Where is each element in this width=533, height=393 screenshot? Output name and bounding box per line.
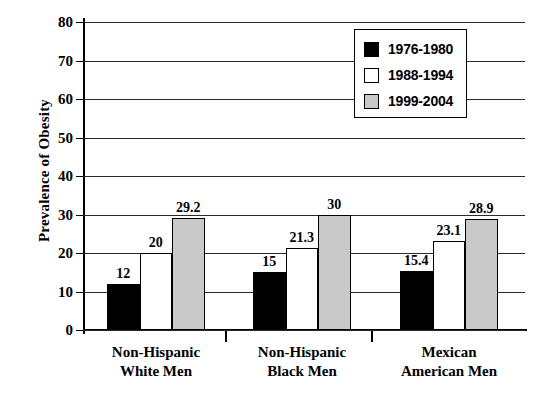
gridline: [83, 176, 525, 177]
y-tick-label: 60: [37, 91, 73, 108]
y-tick-mark: [76, 99, 83, 100]
bar-value-label: 21.3: [272, 231, 333, 245]
x-tick-mark: [371, 331, 373, 342]
y-tick-label: 0: [37, 322, 73, 339]
x-axis-category-label: MexicanAmerican Men: [369, 343, 529, 381]
legend-item-label: 1988-1994: [388, 67, 453, 83]
y-tick-label: 80: [37, 14, 73, 31]
y-tick-label: 50: [37, 130, 73, 147]
y-tick-mark: [76, 330, 83, 331]
bar: [253, 272, 286, 330]
category-label-line: Non-Hispanic: [222, 343, 382, 362]
y-tick-label: 40: [37, 168, 73, 185]
gridline: [83, 330, 525, 331]
y-tick-mark: [76, 253, 83, 254]
x-tick-mark: [225, 331, 227, 342]
legend-item-label: 1976-1980: [388, 41, 453, 57]
legend: 1976-19801988-19941999-2004: [354, 29, 467, 118]
bar-value-label: 15: [239, 255, 300, 269]
bar-value-label: 20: [126, 236, 187, 250]
y-tick-mark: [76, 215, 83, 216]
bar-chart: Prevalence of Obesity 01020304050607080 …: [0, 0, 533, 393]
x-axis-category-label: Non-HispanicBlack Men: [222, 343, 382, 381]
bar: [107, 284, 140, 330]
black-square-swatch: [364, 42, 379, 57]
bar-value-label: 28.9: [451, 202, 512, 216]
y-tick-label: 20: [37, 245, 73, 262]
category-label-line: White Men: [76, 362, 236, 381]
y-tick-mark: [76, 292, 83, 293]
y-tick-label: 70: [37, 53, 73, 70]
legend-item: 1988-1994: [364, 62, 466, 88]
legend-item: 1976-1980: [364, 36, 466, 62]
bar-value-label: 23.1: [419, 224, 480, 238]
y-tick-mark: [76, 61, 83, 62]
bar: [400, 271, 433, 330]
bar-value-label: 29.2: [158, 201, 219, 215]
bar-value-label: 30: [304, 198, 365, 212]
category-label-line: Mexican: [369, 343, 529, 362]
bar: [172, 218, 205, 330]
y-tick-mark: [76, 22, 83, 23]
y-tick-label: 10: [37, 284, 73, 301]
gridline: [83, 138, 525, 139]
category-label-line: American Men: [369, 362, 529, 381]
gridline: [83, 22, 525, 23]
legend-item-label: 1999-2004: [388, 93, 453, 109]
x-axis-category-label: Non-HispanicWhite Men: [76, 343, 236, 381]
category-label-line: Black Men: [222, 362, 382, 381]
y-tick-mark: [76, 176, 83, 177]
legend-item: 1999-2004: [364, 88, 466, 114]
white-square-swatch: [364, 68, 379, 83]
gray-square-swatch: [364, 94, 379, 109]
y-tick-mark: [76, 138, 83, 139]
bar-value-label: 12: [93, 267, 154, 281]
y-tick-label: 30: [37, 207, 73, 224]
category-label-line: Non-Hispanic: [76, 343, 236, 362]
bar: [140, 253, 173, 330]
bar-value-label: 15.4: [386, 254, 447, 268]
